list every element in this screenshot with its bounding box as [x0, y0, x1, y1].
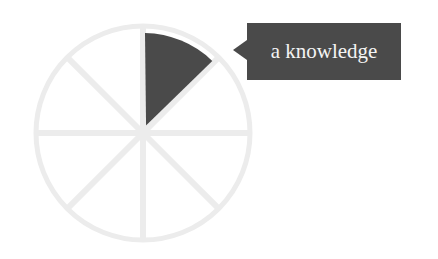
slice-tooltip: a knowledge — [247, 23, 401, 80]
tooltip-pointer — [233, 40, 247, 60]
pie-slices — [36, 26, 250, 240]
slice-separators — [37, 27, 249, 239]
tooltip-text: a knowledge — [271, 39, 378, 63]
